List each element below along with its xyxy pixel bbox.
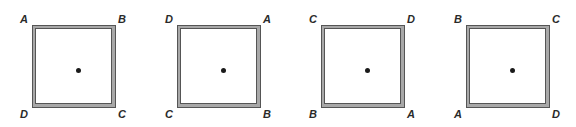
corner-label-top-left: A [20, 14, 28, 25]
square-frame [32, 25, 116, 108]
corner-label-top-right: D [407, 14, 415, 25]
square-interior [469, 28, 546, 104]
corner-label-top-right: B [118, 14, 126, 25]
square-frame [466, 25, 550, 108]
corner-label-bottom-left: C [165, 109, 173, 120]
square-figure-3: C D B A [289, 0, 433, 127]
corner-label-top-left: B [454, 14, 462, 25]
center-point [76, 68, 81, 73]
corner-label-bottom-right: A [407, 109, 415, 120]
corner-label-bottom-right: C [118, 109, 126, 120]
center-point [365, 68, 370, 73]
square-interior [324, 28, 401, 104]
square-interior [180, 28, 257, 104]
corner-label-bottom-right: B [263, 109, 271, 120]
square-frame [177, 25, 261, 108]
square-figure-1: A B D C [0, 0, 144, 127]
corner-label-top-left: D [165, 14, 173, 25]
center-point [510, 68, 515, 73]
corner-label-bottom-left: A [454, 109, 462, 120]
corner-label-top-right: A [263, 14, 271, 25]
square-figure-4: B C A D [434, 0, 576, 127]
square-frame [321, 25, 405, 108]
corner-label-top-left: C [309, 14, 317, 25]
corner-label-bottom-right: D [552, 109, 560, 120]
square-figure-2: D A C B [145, 0, 289, 127]
center-point [221, 68, 226, 73]
square-interior [35, 28, 112, 104]
corner-label-top-right: C [552, 14, 560, 25]
corner-label-bottom-left: D [20, 109, 28, 120]
corner-label-bottom-left: B [309, 109, 317, 120]
